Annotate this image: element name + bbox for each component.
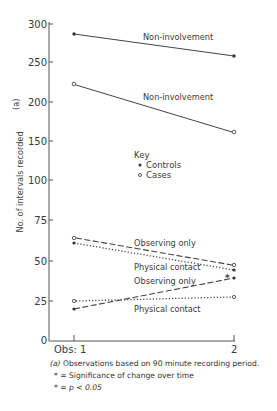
legend-controls-label: Controls: [146, 160, 182, 170]
footnote-p-prefix: * =: [54, 383, 69, 392]
y-ticks: [49, 24, 53, 301]
series-non-involvement-controls: Non-involvement: [72, 32, 235, 58]
tick-label-25: 25: [34, 296, 47, 307]
footnote-a-mark: (a): [50, 359, 61, 368]
y-tick-labels: 0 25 50 75 100 150 200 250 300: [28, 19, 47, 346]
tick-label-50: 50: [34, 256, 47, 267]
point-open: [232, 130, 236, 134]
point-open: [72, 299, 75, 302]
point-filled: [232, 54, 235, 57]
legend-title: Key: [134, 150, 149, 160]
point-filled: [72, 241, 75, 244]
label-observing-only-controls: Observing only: [134, 276, 196, 286]
y-axis-superscript: (a): [11, 99, 21, 110]
tick-label-150: 150: [28, 136, 47, 147]
point-filled: [232, 268, 235, 271]
label-physical-contact-controls: Physical contact: [134, 262, 201, 272]
label-physical-contact-cases: Physical contact: [134, 304, 201, 314]
footnote-a-text: Observations based on 90 minute recordin…: [61, 359, 260, 368]
tick-label-200: 200: [28, 97, 47, 108]
legend-controls-icon: [139, 164, 142, 167]
tick-label-300: 300: [28, 19, 47, 30]
svg-text:No. of intervals recorded: No. of intervals recorded: [15, 131, 25, 232]
footnote-p-value: * = p < 0.05: [54, 383, 102, 392]
point-filled: [72, 32, 75, 35]
label-non-involvement-cases: Non-involvement: [143, 92, 214, 102]
point-filled: [72, 307, 75, 310]
point-open: [232, 295, 235, 298]
x-label-obs2: 2: [231, 344, 237, 355]
footnote-p-text: p < 0.05: [69, 383, 102, 392]
series-physical-contact-cases: Physical contact: [72, 295, 235, 314]
tick-label-75: 75: [34, 215, 47, 226]
y-axis-title: No. of intervals recorded (a): [11, 99, 25, 233]
line-chart: 0 25 50 75 100 150 200 250 300 Obs: 1 2 …: [0, 0, 277, 411]
legend-cases-label: Cases: [146, 170, 172, 180]
point-open: [72, 236, 75, 239]
series-non-involvement-cases: Non-involvement: [72, 82, 236, 134]
point-open: [232, 263, 235, 266]
x-label-obs1: Obs: 1: [54, 344, 86, 355]
legend: Key Controls Cases: [134, 150, 182, 180]
point-filled: [232, 276, 235, 279]
point-open: [72, 82, 76, 86]
label-observing-only-cases: Observing only: [134, 238, 196, 248]
tick-label-100: 100: [28, 175, 47, 186]
tick-label-0: 0: [41, 335, 47, 346]
footnote-significance: * = Significance of change over time: [54, 371, 194, 380]
legend-cases-icon: [139, 174, 142, 177]
tick-label-250: 250: [28, 57, 47, 68]
footnote-recording-period: (a) Observations based on 90 minute reco…: [50, 359, 259, 368]
label-non-involvement-controls: Non-involvement: [143, 32, 214, 42]
significance-asterisk: *: [225, 273, 230, 283]
